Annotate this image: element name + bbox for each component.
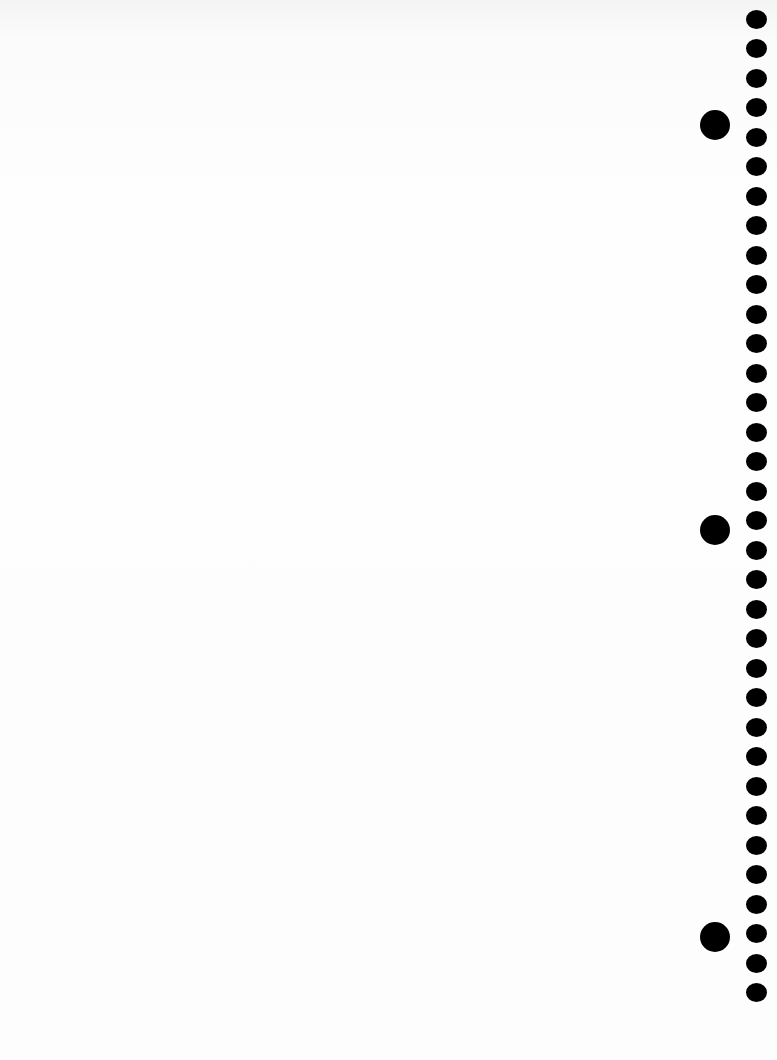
binder-hole-large bbox=[700, 110, 730, 140]
binder-hole-small bbox=[746, 747, 767, 766]
binder-hole-large bbox=[700, 922, 730, 952]
binder-hole-small bbox=[746, 275, 767, 294]
binder-hole-small bbox=[746, 305, 767, 324]
binder-hole-small bbox=[746, 629, 767, 648]
binder-hole-small bbox=[746, 334, 767, 353]
binder-hole-small bbox=[746, 924, 767, 943]
binder-hole-small bbox=[746, 806, 767, 825]
binder-hole-small bbox=[746, 836, 767, 855]
binder-hole-small bbox=[746, 364, 767, 383]
binder-hole-small bbox=[746, 541, 767, 560]
binder-hole-small bbox=[746, 570, 767, 589]
binder-hole-small bbox=[746, 128, 767, 147]
binder-hole-small bbox=[746, 423, 767, 442]
binder-hole-small bbox=[746, 718, 767, 737]
binder-hole-small bbox=[746, 69, 767, 88]
binder-hole-small bbox=[746, 39, 767, 58]
binder-hole-large bbox=[700, 515, 730, 545]
binder-hole-small bbox=[746, 452, 767, 471]
binder-hole-small bbox=[746, 688, 767, 707]
binder-hole-small bbox=[746, 659, 767, 678]
binder-hole-small bbox=[746, 895, 767, 914]
binder-hole-small bbox=[746, 600, 767, 619]
binder-hole-small bbox=[746, 98, 767, 117]
binder-hole-small bbox=[746, 954, 767, 973]
binder-hole-small bbox=[746, 187, 767, 206]
binder-hole-small bbox=[746, 246, 767, 265]
binder-hole-small bbox=[746, 482, 767, 501]
binder-hole-small bbox=[746, 865, 767, 884]
binder-hole-small bbox=[746, 10, 767, 29]
notebook-page bbox=[0, 0, 777, 1060]
binder-hole-small bbox=[746, 983, 767, 1002]
binder-hole-small bbox=[746, 511, 767, 530]
binder-hole-small bbox=[746, 393, 767, 412]
binder-hole-small bbox=[746, 216, 767, 235]
binder-hole-small bbox=[746, 157, 767, 176]
binder-hole-small bbox=[746, 777, 767, 796]
